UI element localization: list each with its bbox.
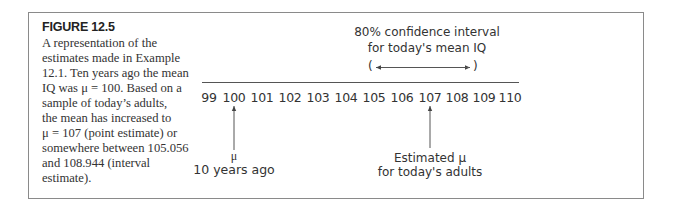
tick-label: 99: [201, 90, 216, 105]
diagram-arrows: [0, 0, 677, 214]
estimated-mean-line-2: for today's adults: [378, 165, 483, 179]
mu-symbol: μ: [193, 151, 275, 162]
tick-label: 100: [223, 90, 246, 105]
tick-label: 108: [446, 90, 469, 105]
tick-label: 107: [419, 90, 442, 105]
number-line-axis: [202, 82, 519, 83]
tick-label: 109: [473, 90, 496, 105]
tick-label: 106: [391, 90, 414, 105]
tick-label: 104: [335, 90, 358, 105]
tick-label: 101: [251, 90, 274, 105]
estimated-mean-line-1: Estimated μ: [378, 151, 483, 165]
tick-label: 102: [279, 90, 302, 105]
estimated-mean-label: Estimated μ for today's adults: [378, 151, 483, 179]
past-mean-label: μ 10 years ago: [193, 151, 275, 177]
tick-label: 103: [307, 90, 330, 105]
past-mean-text: 10 years ago: [193, 162, 275, 177]
tick-label: 110: [499, 90, 522, 105]
tick-label: 105: [363, 90, 386, 105]
